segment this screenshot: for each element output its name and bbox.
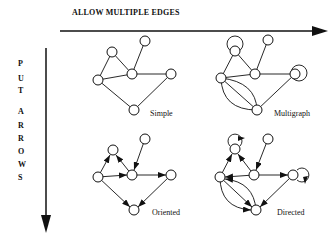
graph-node bbox=[129, 205, 139, 215]
simple-label: Simple bbox=[150, 109, 173, 118]
vertical-letter: W bbox=[18, 160, 26, 169]
horizontal-axis: ALLOW MULTIPLE EDGES bbox=[60, 8, 328, 36]
graph-node bbox=[127, 69, 137, 79]
graph-node bbox=[250, 69, 260, 79]
vertical-letter: A bbox=[18, 107, 24, 116]
graph-node bbox=[93, 75, 103, 85]
horizontal-axis-label: ALLOW MULTIPLE EDGES bbox=[72, 8, 180, 17]
directed-graph: Directed bbox=[215, 134, 309, 217]
graph-node bbox=[216, 73, 226, 83]
oriented-graph: Oriented bbox=[93, 134, 180, 217]
graph-node bbox=[230, 46, 240, 56]
vertical-letter: T bbox=[18, 86, 24, 95]
graph-node bbox=[215, 172, 225, 182]
vertical-letter: O bbox=[18, 147, 24, 156]
vertical-letter: R bbox=[18, 134, 24, 143]
graph-node bbox=[252, 105, 262, 115]
graph-node bbox=[249, 170, 259, 180]
graph-node bbox=[251, 205, 261, 215]
vertical-letter: R bbox=[18, 121, 24, 130]
vertical-letter: S bbox=[18, 173, 23, 182]
graph-node bbox=[140, 134, 150, 144]
multigraph: Multigraph bbox=[216, 35, 310, 118]
graph-node bbox=[263, 134, 273, 144]
graph-node bbox=[230, 144, 240, 154]
multigraph-label: Multigraph bbox=[274, 109, 310, 118]
oriented-label: Oriented bbox=[152, 208, 180, 217]
graph-node bbox=[166, 170, 176, 180]
graph-node bbox=[288, 170, 298, 180]
graph-node bbox=[140, 36, 150, 46]
graph-node bbox=[107, 47, 117, 57]
graph-node bbox=[263, 35, 273, 45]
graph-node bbox=[129, 105, 139, 115]
simple-graph: Simple bbox=[93, 36, 176, 118]
graph-node bbox=[290, 69, 300, 79]
graph-node bbox=[127, 170, 137, 180]
graph-node bbox=[166, 69, 176, 79]
vertical-letter: P bbox=[18, 59, 23, 68]
vertical-letter: U bbox=[18, 74, 24, 83]
directed-label: Directed bbox=[277, 208, 305, 217]
graph-node bbox=[93, 172, 103, 182]
vertical-arrowhead-icon bbox=[41, 215, 51, 233]
graph-types-diagram: ALLOW MULTIPLE EDGES P U T A R R O W S S… bbox=[0, 0, 336, 235]
horizontal-arrowhead-icon bbox=[312, 26, 328, 36]
vertical-axis: P U T A R R O W S bbox=[18, 48, 51, 233]
graph-node bbox=[108, 145, 118, 155]
